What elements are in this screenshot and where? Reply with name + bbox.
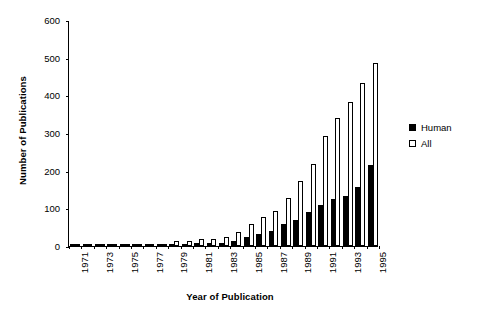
bar-group	[280, 21, 292, 246]
bar-all	[75, 244, 80, 246]
x-axis-tick-mark	[342, 246, 343, 249]
bar-all	[236, 232, 241, 246]
x-axis-tick-mark	[230, 246, 231, 249]
x-axis-tick-mark	[143, 246, 144, 249]
legend-item-label: Human	[421, 122, 452, 133]
x-axis-tick-label: 1973	[104, 252, 115, 298]
bar-all	[273, 211, 278, 246]
x-axis-tick-label: 1995	[377, 252, 388, 298]
y-axis-tick-label: 100	[26, 204, 60, 214]
open-square-icon	[409, 140, 416, 147]
bar-group	[305, 21, 317, 246]
bar-all	[360, 83, 365, 246]
x-axis-tick-mark	[131, 246, 132, 249]
x-axis-tick-mark	[205, 246, 206, 249]
x-axis-tick-mark	[354, 246, 355, 249]
bar-all	[112, 244, 117, 246]
bar-group	[218, 21, 230, 246]
bar-group	[81, 21, 93, 246]
plot-area	[68, 21, 378, 247]
x-axis-tick-mark	[181, 246, 182, 249]
x-axis-tick-mark	[367, 246, 368, 249]
bar-group	[205, 21, 217, 246]
bar-group	[354, 21, 366, 246]
bar-all	[149, 244, 154, 246]
x-axis-tick-label: 1993	[352, 252, 363, 298]
bar-all	[174, 241, 179, 246]
bar-group	[367, 21, 379, 246]
x-axis-tick-mark	[255, 246, 256, 249]
bar-all	[187, 241, 192, 246]
x-axis-tick-mark	[119, 246, 120, 249]
y-axis-tick-label: 0	[26, 242, 60, 252]
bar-group	[131, 21, 143, 246]
x-axis-tick-mark	[106, 246, 107, 249]
bar-group	[168, 21, 180, 246]
legend-item: All	[409, 135, 452, 151]
bar-group	[94, 21, 106, 246]
filled-square-icon	[409, 124, 416, 131]
bar-group	[106, 21, 118, 246]
x-axis-tick-mark	[317, 246, 318, 249]
x-axis-tick-mark	[329, 246, 330, 249]
x-axis-tick-mark	[193, 246, 194, 249]
bar-all	[87, 244, 92, 246]
y-axis-tick-label: 300	[26, 129, 60, 139]
bar-group	[181, 21, 193, 246]
bar-group	[69, 21, 81, 246]
y-axis-tick-label: 200	[26, 167, 60, 177]
bar-all	[211, 239, 216, 246]
bar-all	[311, 164, 316, 246]
bar-all	[199, 239, 204, 246]
x-axis-tick-mark	[81, 246, 82, 249]
x-axis-tick-mark	[280, 246, 281, 249]
bar-group	[230, 21, 242, 246]
bar-group	[267, 21, 279, 246]
bar-all	[348, 102, 353, 246]
x-axis-tick-mark	[69, 246, 70, 249]
publications-bar-chart: Number of Publications 01002003004005006…	[0, 0, 493, 311]
bar-group	[342, 21, 354, 246]
x-axis-tick-mark	[305, 246, 306, 249]
bar-series-container	[69, 21, 378, 246]
bar-group	[255, 21, 267, 246]
bar-all	[261, 217, 266, 246]
x-axis-tick-label: 1971	[79, 252, 90, 298]
bar-all	[323, 136, 328, 246]
y-axis-tick-label: 400	[26, 91, 60, 101]
bar-all	[286, 198, 291, 246]
bar-group	[193, 21, 205, 246]
bar-group	[329, 21, 341, 246]
bar-all	[137, 244, 142, 246]
x-axis-tick-mark	[379, 246, 380, 249]
bar-group	[119, 21, 131, 246]
x-axis-tick-mark	[292, 246, 293, 249]
x-axis-title: Year of Publication	[120, 291, 340, 302]
bar-all	[373, 63, 378, 246]
bar-all	[224, 237, 229, 246]
x-axis-tick-mark	[168, 246, 169, 249]
x-axis-tick-mark	[94, 246, 95, 249]
x-axis-tick-mark	[156, 246, 157, 249]
x-axis-tick-mark	[218, 246, 219, 249]
bar-all	[125, 244, 130, 246]
bar-all	[100, 244, 105, 246]
x-axis-tick-mark	[243, 246, 244, 249]
bar-group	[292, 21, 304, 246]
bar-all	[335, 118, 340, 246]
bar-all	[298, 181, 303, 246]
y-axis-tick-label: 600	[26, 16, 60, 26]
y-axis-tick-label: 500	[26, 54, 60, 64]
bar-all	[162, 244, 167, 246]
bar-group	[143, 21, 155, 246]
bar-group	[156, 21, 168, 246]
bar-all	[249, 224, 254, 246]
bar-group	[317, 21, 329, 246]
legend-item-label: All	[421, 138, 432, 149]
chart-legend: HumanAll	[409, 119, 452, 151]
x-axis-tick-mark	[267, 246, 268, 249]
legend-item: Human	[409, 119, 452, 135]
bar-group	[243, 21, 255, 246]
